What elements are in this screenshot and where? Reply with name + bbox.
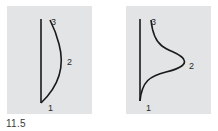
- label-point-3: 3: [51, 17, 56, 27]
- arc-curve: [41, 20, 61, 103]
- label-point-2: 2: [67, 57, 72, 67]
- diagram-panel-a: 3 2 1: [7, 6, 92, 114]
- label-point-3: 3: [151, 17, 156, 27]
- label-point-2: 2: [189, 61, 194, 71]
- label-point-1: 1: [146, 103, 151, 113]
- bell-curve: [140, 20, 184, 101]
- label-point-1: 1: [48, 103, 53, 113]
- figure-caption: 11.5: [6, 118, 26, 129]
- diagram-panel-b: 3 2 1: [126, 6, 211, 114]
- arc-curve-diagram: 3 2 1: [7, 6, 92, 114]
- bell-curve-diagram: 3 2 1: [126, 6, 211, 114]
